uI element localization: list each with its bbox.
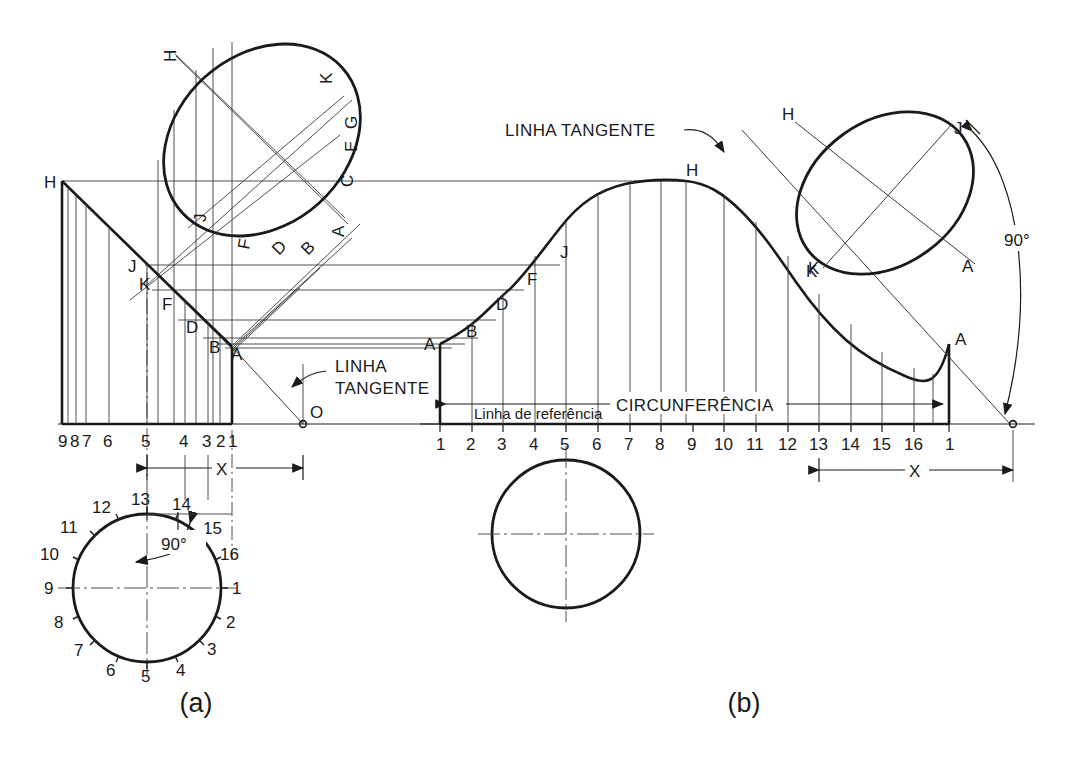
angle-label-a: 90° (161, 535, 187, 554)
circle-a-label-4: 4 (176, 661, 185, 680)
baseline-b-num-5: 5 (560, 435, 569, 454)
profile-b-ordinates (472, 181, 933, 424)
circle-a-label-10: 10 (40, 545, 59, 564)
circle-a-label-11: 11 (60, 518, 78, 537)
baseline-a-num-2: 2 (216, 432, 225, 451)
profile-a-label-K: K (139, 275, 151, 294)
circle-a-label-9: 9 (44, 579, 53, 598)
curve-b-label-J: J (560, 243, 569, 262)
baseline-b-num-3: 3 (497, 435, 506, 454)
baseline-a-num-8: 8 (70, 432, 79, 451)
ellipse-b-label-A: A (962, 257, 974, 276)
baseline-b-num-13: 13 (809, 435, 828, 454)
baseline-a-num-7: 7 (82, 432, 91, 451)
construction-lines-a (62, 42, 360, 424)
circle-a-label-14: 14 (172, 495, 191, 514)
ellipse-a-label-B: B (297, 237, 319, 258)
baseline-b-num-10: 10 (714, 435, 733, 454)
curve-b-label-H: H (686, 161, 698, 180)
dimension-x-b-label: X (909, 462, 920, 481)
profile-b (440, 180, 949, 424)
linha-tangente-label-b: LINHA TANGENTE (505, 121, 655, 140)
linha-tangente-leader-a (292, 371, 326, 387)
dimension-x-a-label: X (216, 460, 227, 479)
baseline-b-num-14: 14 (841, 435, 860, 454)
baseline-b-num-8: 8 (655, 435, 664, 454)
circle-a-label-12: 12 (92, 498, 111, 517)
caption-a: (a) (180, 688, 213, 718)
baseline-b-num-6: 6 (592, 435, 601, 454)
view-a: O LINHA TANGENTE H K G E C A B D F J H J… (40, 5, 686, 718)
tangent-line-a (232, 347, 303, 424)
curve-b-label-A: A (424, 335, 436, 354)
baseline-numbers-a: 9 8 7 6 5 4 3 2 1 (58, 432, 237, 451)
curve-b-label-B: B (466, 322, 477, 341)
baseline-a-num-5: 5 (141, 432, 150, 451)
ellipse-a-label-K: K (317, 72, 336, 84)
ellipse-a-label-E: E (342, 141, 361, 152)
angle-a-arc-lower (136, 554, 170, 562)
profile-a-label-A: A (231, 345, 243, 364)
baseline-b-num-2: 2 (466, 435, 475, 454)
curve-b-label-D: D (496, 295, 508, 314)
angle-b: 90° (966, 120, 1053, 414)
linha-de-referencia-label: Linha de referência (474, 405, 603, 422)
curve-b-label-A2: A (955, 330, 967, 349)
curve-b-labels: A B D F J H K A (424, 161, 967, 354)
circunferencia-label: CIRCUNFERÊNCIA (616, 396, 774, 415)
baseline-b-num-1b: 1 (945, 435, 954, 454)
ellipse-a-label-J: J (191, 214, 210, 223)
ellipse-a-label-C: C (338, 175, 357, 187)
baseline-b-num-4: 4 (529, 435, 538, 454)
baseline-numbers-b: 1 2 3 4 5 6 7 8 9 10 11 12 13 14 15 16 1 (436, 435, 954, 454)
ellipse-b-label-H: H (782, 105, 794, 124)
baseline-b-num-15: 15 (872, 435, 891, 454)
baseline-a-num-1: 1 (228, 432, 237, 451)
baseline-b-num-11: 11 (746, 435, 764, 454)
tangent-line-b (742, 130, 1010, 424)
baseline-b-num-1: 1 (436, 435, 445, 454)
ellipse-a-label-F: F (234, 237, 255, 251)
circle-a-label-13: 13 (131, 490, 150, 509)
profile-a-label-F: F (162, 295, 172, 314)
origin-point-label-a: O (310, 403, 323, 422)
circle-a-label-7: 7 (74, 641, 83, 660)
circle-a-label-16: 16 (220, 545, 239, 564)
division-circle-a: 1 2 3 4 5 6 7 8 9 10 11 12 13 14 15 16 9… (40, 490, 241, 686)
baseline-b-num-9: 9 (687, 435, 696, 454)
baseline-a-num-6: 6 (103, 432, 112, 451)
baseline-b-num-7: 7 (624, 435, 633, 454)
projectors-a-to-b (62, 181, 686, 348)
baseline-a-num-4: 4 (179, 432, 188, 451)
caption-b: (b) (728, 688, 761, 718)
circle-a-label-5: 5 (141, 667, 150, 686)
circle-a-label-8: 8 (54, 613, 63, 632)
curve-b-label-F: F (527, 270, 537, 289)
technical-drawing-figure: O LINHA TANGENTE H K G E C A B D F J H J… (0, 0, 1080, 775)
reference-circle-b (478, 446, 654, 622)
drawing-canvas: O LINHA TANGENTE H K G E C A B D F J H J… (0, 0, 1080, 775)
view-b: CIRCUNFERÊNCIA Linha de referência (420, 78, 1053, 718)
ellipse-b-label-K2: K (806, 262, 818, 281)
circle-a-label-3: 3 (207, 640, 216, 659)
profile-a-label-D: D (186, 318, 198, 337)
angle-label-b: 90° (1004, 231, 1030, 250)
circle-a-label-6: 6 (106, 661, 115, 680)
linha-tangente-leader-b (684, 130, 724, 152)
ellipse-a-label-H: H (161, 50, 180, 62)
linha-tangente-label-a-line1: LINHA (335, 357, 387, 376)
circle-a-label-1: 1 (232, 579, 241, 598)
ellipse-a-label-D: D (268, 237, 290, 259)
linha-tangente-label-a-line2: TANGENTE (335, 379, 430, 398)
baseline-b-num-12: 12 (778, 435, 797, 454)
profile-a-label-B: B (209, 338, 220, 357)
ellipse-a-labels: H K G E C A B D F J (161, 50, 361, 259)
profile-a-label-J: J (128, 257, 137, 276)
baseline-a-num-9: 9 (58, 432, 67, 451)
profile-a-label-H: H (44, 173, 56, 192)
ellipse-b-label-J: J (954, 119, 963, 138)
ellipse-a-label-A: A (329, 225, 348, 237)
baseline-a-num-3: 3 (202, 432, 211, 451)
baseline-b-num-16: 16 (904, 435, 923, 454)
circle-a-label-2: 2 (226, 613, 235, 632)
